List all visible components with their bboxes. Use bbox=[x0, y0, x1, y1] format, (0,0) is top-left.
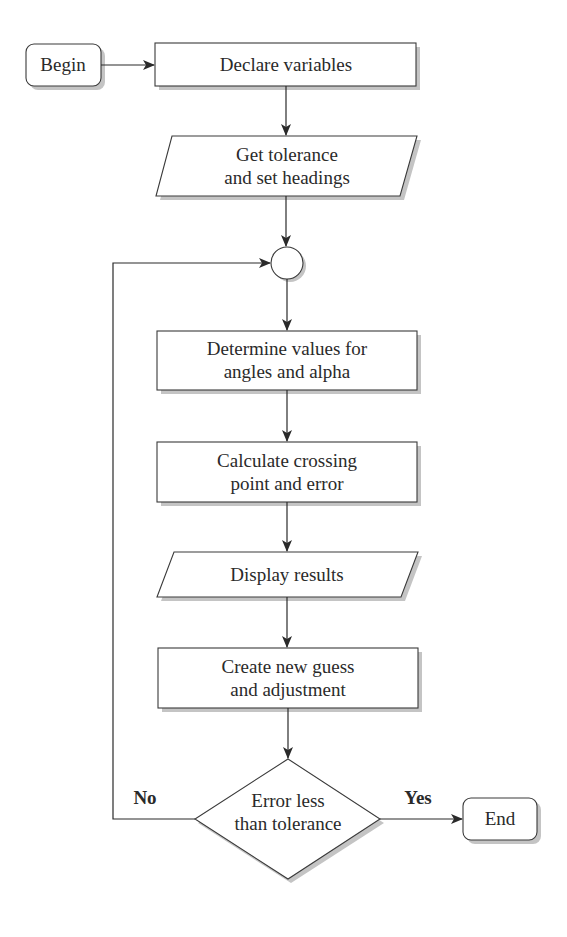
determine-values-label-line1: Determine values for bbox=[207, 338, 367, 360]
decision-label-line1: Error less bbox=[251, 790, 324, 812]
loop-connector bbox=[271, 247, 303, 279]
declare-variables-label: Declare variables bbox=[220, 54, 352, 76]
create-guess-label-line2: and adjustment bbox=[230, 679, 346, 701]
determine-values-label-line2: angles and alpha bbox=[224, 361, 351, 383]
end-label: End bbox=[485, 808, 516, 830]
get-tolerance-label-line1: Get tolerance bbox=[236, 144, 338, 166]
no-branch-label: No bbox=[133, 787, 156, 809]
get-tolerance-label-line2: and set headings bbox=[224, 167, 350, 189]
decision-label-line2: than tolerance bbox=[234, 813, 341, 835]
calculate-crossing-label-line1: Calculate crossing bbox=[217, 450, 357, 472]
yes-branch-label: Yes bbox=[404, 787, 431, 809]
display-results-label: Display results bbox=[230, 564, 343, 586]
create-guess-label-line1: Create new guess bbox=[222, 656, 355, 678]
begin-label: Begin bbox=[40, 54, 85, 76]
calculate-crossing-label-line2: point and error bbox=[231, 473, 344, 495]
